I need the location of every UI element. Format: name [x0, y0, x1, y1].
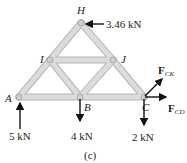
force-arrow-FCK: [145, 79, 162, 96]
joint-H: [78, 20, 84, 26]
joint-A: [16, 94, 22, 100]
force-label-FCK: FCK: [158, 64, 174, 78]
joint-label-J: J: [121, 53, 127, 65]
member-BJ: [80, 60, 113, 97]
load-label-H: 3.46 kN: [106, 18, 142, 30]
joint-I: [47, 57, 53, 63]
member-JC: [113, 60, 144, 97]
member-AI: [19, 60, 50, 97]
joint-label-A: A: [4, 92, 12, 104]
joint-label-B: B: [84, 101, 91, 113]
member-IH: [50, 23, 81, 60]
joint-label-H: H: [76, 4, 86, 16]
load-label-C: 2 kN: [132, 131, 154, 143]
joint-label-C: C: [142, 101, 150, 113]
truss-diagram: H I J A B C 3.46 kN 5 kN 4 kN 2 kN FCK F…: [0, 0, 187, 163]
load-label-B: 4 kN: [71, 130, 93, 142]
force-label-FCD: FCD: [168, 102, 184, 116]
member-IB: [50, 60, 80, 97]
reaction-label-A: 5 kN: [9, 130, 31, 142]
figure-caption: (c): [84, 149, 97, 162]
joint-J: [110, 57, 116, 63]
